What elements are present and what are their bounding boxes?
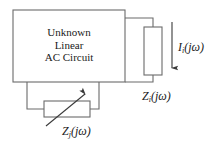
load-impedance-subscript: i [149, 95, 151, 104]
circuit-diagram: Unknown Linear AC Circuit Ii(jω) Zi(jω) … [0, 0, 221, 147]
load-impedance-symbol: Z [142, 89, 149, 103]
unknown-circuit-line-1: Unknown [16, 26, 122, 39]
load-impedance-argument: (jω) [151, 89, 171, 103]
load-impedance-label: Zi(jω) [142, 89, 171, 104]
variable-impedance-symbol: Z [62, 124, 69, 138]
unknown-circuit-line-3: AC Circuit [16, 51, 122, 64]
bottom-connection-wire [125, 75, 153, 82]
variable-impedance-argument: (jω) [71, 124, 91, 138]
variable-left-wire [27, 82, 44, 109]
current-subscript: i [182, 46, 184, 55]
variable-right-wire [90, 82, 99, 109]
unknown-circuit-label: Unknown Linear AC Circuit [16, 26, 122, 64]
variable-impedance-label: Zj(jω) [62, 124, 91, 139]
top-connection-wire [125, 18, 153, 27]
variable-impedance-subscript: j [69, 130, 71, 139]
load-impedance-box [144, 27, 162, 75]
current-label: Ii(jω) [178, 40, 204, 55]
current-argument: (jω) [184, 40, 204, 54]
unknown-circuit-line-2: Linear [16, 39, 122, 52]
circuit-schematic-svg [0, 0, 221, 147]
